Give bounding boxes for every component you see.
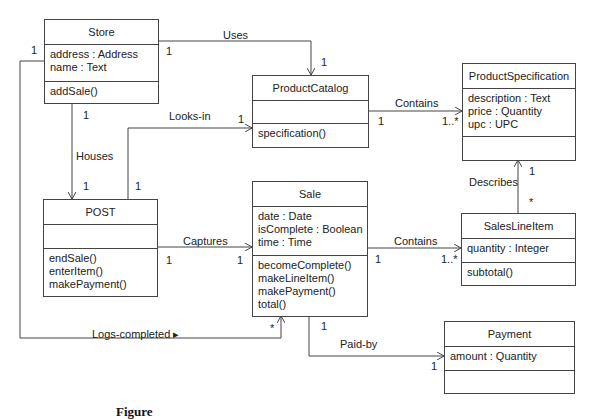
multiplicity: * xyxy=(529,196,533,208)
association-label-logs-completed: Logs-completed ▸ xyxy=(92,328,179,341)
attribute: upc : UPC xyxy=(468,118,570,131)
operation: addSale() xyxy=(50,85,153,98)
class-name: Sale xyxy=(253,182,367,207)
class-attributes: description : Text price : Quantity upc … xyxy=(463,89,575,137)
class-attributes xyxy=(253,101,368,124)
association-label-houses: Houses xyxy=(76,150,113,162)
class-operations: becomeComplete() makeLineItem() makePaym… xyxy=(253,256,367,314)
class-sale: Sale date : Date isComplete : Boolean ti… xyxy=(252,181,368,317)
operation: makePayment() xyxy=(49,278,152,291)
class-sales-line-item: SalesLineItem quantity : Integer subtota… xyxy=(461,213,576,286)
class-attributes: address : Address name : Text xyxy=(45,45,158,82)
class-name: ProductCatalog xyxy=(253,76,368,101)
operation: subtotal() xyxy=(467,266,570,279)
multiplicity: 1 xyxy=(135,180,141,192)
class-name: Payment xyxy=(445,322,574,347)
class-name: POST xyxy=(44,200,157,225)
multiplicity: 1 xyxy=(321,320,327,332)
attribute: name : Text xyxy=(50,61,153,74)
class-operations: endSale() enterItem() makePayment() xyxy=(44,249,157,294)
class-operations: specification() xyxy=(253,124,368,143)
multiplicity: 1 xyxy=(529,165,535,177)
class-product-catalog: ProductCatalog specification() xyxy=(252,75,369,148)
multiplicity: 1 xyxy=(375,253,381,265)
attribute: time : Time xyxy=(258,236,362,249)
class-attributes: amount : Quantity xyxy=(445,347,574,371)
class-name: ProductSpecification xyxy=(463,64,575,89)
class-post: POST endSale() enterItem() makePayment() xyxy=(43,199,158,297)
multiplicity: 1 xyxy=(166,254,172,266)
multiplicity: 1 xyxy=(83,180,89,192)
attribute: description : Text xyxy=(468,92,570,105)
attribute: amount : Quantity xyxy=(450,350,569,363)
operation: enterItem() xyxy=(49,265,152,278)
class-operations: subtotal() xyxy=(462,263,575,282)
class-store: Store address : Address name : Text addS… xyxy=(44,19,159,104)
class-operations xyxy=(463,137,575,143)
class-operations: addSale() xyxy=(45,82,158,101)
association-label-paid-by: Paid-by xyxy=(340,338,377,350)
attribute: quantity : Integer xyxy=(467,242,570,255)
multiplicity: 1 xyxy=(31,44,37,56)
association-label-uses: Uses xyxy=(223,29,248,41)
class-product-specification: ProductSpecification description : Text … xyxy=(462,63,576,161)
class-payment: Payment amount : Quantity xyxy=(444,321,575,394)
multiplicity: * xyxy=(270,322,274,334)
operation: specification() xyxy=(258,127,363,140)
association-label-captures: Captures xyxy=(183,235,228,247)
class-attributes: date : Date isComplete : Boolean time : … xyxy=(253,207,367,256)
class-attributes: quantity : Integer xyxy=(462,239,575,263)
multiplicity: 1 xyxy=(238,113,244,125)
attribute: isComplete : Boolean xyxy=(258,223,362,236)
multiplicity: 1 xyxy=(378,115,384,127)
multiplicity: 1 xyxy=(321,56,327,68)
multiplicity: 1 xyxy=(237,254,243,266)
operation: total() xyxy=(258,298,362,311)
looks-in-line xyxy=(128,128,252,199)
class-name: SalesLineItem xyxy=(462,214,575,239)
class-attributes xyxy=(44,225,157,249)
association-label-describes: Describes xyxy=(469,176,518,188)
uses-line xyxy=(158,41,311,75)
figure-caption: Figure xyxy=(116,404,153,420)
association-label-looks-in: Looks-in xyxy=(169,110,211,122)
multiplicity: 1 xyxy=(431,360,437,372)
operation: becomeComplete() xyxy=(258,259,362,272)
operation: endSale() xyxy=(49,252,152,265)
attribute: address : Address xyxy=(50,48,153,61)
operation: makeLineItem() xyxy=(258,272,362,285)
attribute: date : Date xyxy=(258,210,362,223)
attribute: price : Quantity xyxy=(468,105,570,118)
multiplicity: 1 xyxy=(166,45,172,57)
class-name: Store xyxy=(45,20,158,45)
multiplicity: 1..* xyxy=(441,253,458,265)
operation: makePayment() xyxy=(258,285,362,298)
association-label-contains: Contains xyxy=(394,235,437,247)
association-label-contains: Contains xyxy=(395,97,438,109)
multiplicity: 1 xyxy=(83,109,89,121)
class-operations xyxy=(445,371,574,377)
multiplicity: 1..* xyxy=(442,115,459,127)
paid-by-line xyxy=(309,316,444,356)
